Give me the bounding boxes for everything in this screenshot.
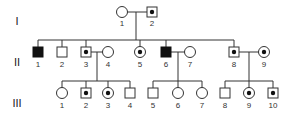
generation-label: III xyxy=(12,97,21,109)
individual-number: 8 xyxy=(223,101,228,110)
male-unaffected-symbol xyxy=(57,47,67,57)
female-unaffected-symbol xyxy=(57,88,68,99)
individual-number: 3 xyxy=(84,60,89,69)
individual-number: 6 xyxy=(176,101,181,110)
female-unaffected-symbol xyxy=(197,88,208,99)
generation-label: II xyxy=(14,56,20,68)
carrier-dot-icon xyxy=(271,91,275,95)
individual-number: 3 xyxy=(106,101,111,110)
individual-number: 7 xyxy=(188,60,193,69)
individual-number: 4 xyxy=(128,101,133,110)
generation-label: I xyxy=(15,15,18,27)
individual-number: 8 xyxy=(232,60,237,69)
female-unaffected-symbol xyxy=(185,47,196,58)
male-affected-symbol xyxy=(161,47,171,57)
individual-number: 1 xyxy=(120,19,125,28)
female-unaffected-symbol xyxy=(117,7,128,18)
carrier-dot-icon xyxy=(150,10,154,14)
carrier-dot-icon xyxy=(247,91,251,95)
carrier-dot-icon xyxy=(232,50,236,54)
individual-number: 9 xyxy=(262,60,267,69)
individual-number: 9 xyxy=(247,101,252,110)
male-unaffected-symbol xyxy=(148,88,158,98)
carrier-dot-icon xyxy=(262,50,266,54)
individual-number: 2 xyxy=(60,60,65,69)
pedigree-svg: IIIIII1212345678912345678910 xyxy=(0,0,291,122)
female-unaffected-symbol xyxy=(173,88,184,99)
male-unaffected-symbol xyxy=(125,88,135,98)
carrier-dot-icon xyxy=(106,91,110,95)
individual-number: 2 xyxy=(84,101,89,110)
carrier-dot-icon xyxy=(138,50,142,54)
individual-number: 6 xyxy=(164,60,169,69)
individual-number: 4 xyxy=(106,60,111,69)
carrier-dot-icon xyxy=(84,91,88,95)
pedigree-chart: IIIIII1212345678912345678910 xyxy=(0,0,291,122)
female-unaffected-symbol xyxy=(103,47,114,58)
individual-number: 5 xyxy=(138,60,143,69)
male-unaffected-symbol xyxy=(220,88,230,98)
individual-number: 5 xyxy=(151,101,156,110)
individual-number: 2 xyxy=(150,19,155,28)
individual-number: 10 xyxy=(269,101,278,110)
individual-number: 7 xyxy=(200,101,205,110)
individual-number: 1 xyxy=(36,60,41,69)
male-affected-symbol xyxy=(33,47,43,57)
carrier-dot-icon xyxy=(84,50,88,54)
individual-number: 1 xyxy=(60,101,65,110)
